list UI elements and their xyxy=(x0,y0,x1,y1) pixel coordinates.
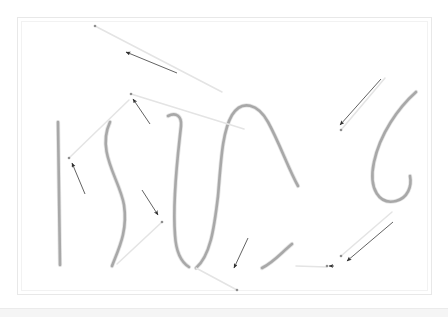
drawing-canvas[interactable] xyxy=(0,0,448,317)
annotation-3-dot[interactable] xyxy=(68,157,71,160)
annotation-4-dot[interactable] xyxy=(161,221,164,224)
annotation-8-dot[interactable] xyxy=(326,265,329,268)
annotation-2-dot[interactable] xyxy=(130,93,133,96)
annotation-8-leader-line xyxy=(296,266,327,267)
canvas-footer-strip xyxy=(0,308,448,317)
canvas-frame xyxy=(18,18,432,295)
annotation-5-dot[interactable] xyxy=(236,289,239,292)
annotation-1-dot[interactable] xyxy=(94,25,97,28)
annotation-6-dot[interactable] xyxy=(340,129,343,132)
annotation-7-dot[interactable] xyxy=(340,255,343,258)
screenshot-root xyxy=(0,0,448,317)
